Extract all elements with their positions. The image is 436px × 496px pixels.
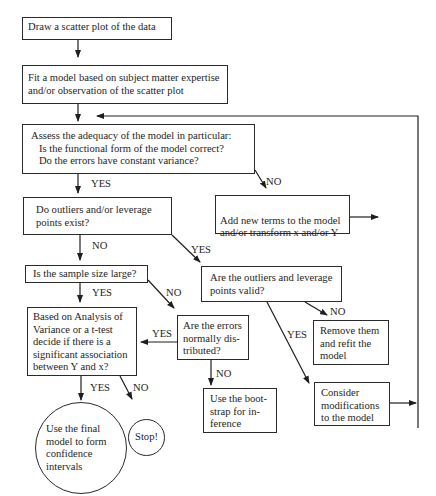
node-stop: Stop! (128, 419, 165, 456)
arrow-valid-no (305, 302, 327, 315)
label-outliers-no: NO (92, 240, 107, 252)
label-anova-yes: YES (90, 382, 110, 394)
label-assess-no: NO (266, 176, 281, 188)
arrow-assess-no (255, 170, 266, 188)
node-outliers-exist: Do outliers and/or leverage points exist… (23, 197, 172, 235)
node-add-terms: Add new terms to the model and/or transf… (215, 195, 350, 234)
label-normal-yes: YES (152, 328, 172, 340)
node-fit-model: Fit a model based on subject matter expe… (22, 65, 228, 104)
arrow-anova-no (120, 376, 132, 399)
add-terms-text: Add new terms to the model and/or transf… (220, 215, 340, 239)
label-valid-yes: YES (287, 329, 307, 341)
label-normal-no: NO (216, 368, 231, 380)
node-consider-mods: Consider modifications to the model (314, 382, 390, 426)
stop-text: Stop! (135, 431, 158, 444)
label-outliers-yes: YES (191, 244, 211, 256)
node-sample-large: Is the sample size large? (25, 265, 148, 283)
arrow-valid-yes (267, 302, 309, 383)
label-assess-yes: YES (91, 178, 111, 190)
label-anova-no: NO (133, 382, 148, 394)
node-assess-adequacy: Assess the adequacy of the model in part… (22, 124, 255, 174)
label-valid-no: NO (330, 306, 345, 318)
label-sample-yes: YES (92, 287, 112, 299)
final-model-text: Use the final model to form confidence i… (46, 423, 107, 473)
flowchart-canvas: Draw a scatter plot of the data Fit a mo… (0, 0, 436, 496)
node-errors-normal: Are the errors normally dis- tributed? (177, 315, 249, 360)
label-sample-no: NO (166, 287, 181, 299)
node-anova-ttest: Based on Analysis of Variance or a t-tes… (27, 307, 137, 376)
node-outliers-valid: Are the outliers and leverage points val… (201, 266, 342, 302)
node-draw-scatter: Draw a scatter plot of the data (22, 17, 172, 40)
node-remove-refit: Remove them and refit the model (313, 320, 389, 365)
node-bootstrap: Use the boot- strap for in- ference (203, 388, 277, 433)
node-final-model: Use the final model to form confidence i… (35, 402, 127, 494)
